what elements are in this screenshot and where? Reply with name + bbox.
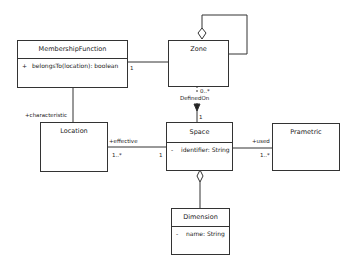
class-name: Location [41,123,107,140]
space-dimension-aggregation [197,170,203,208]
visibility-marker: - [176,230,186,237]
class-location[interactable]: Location [40,122,108,172]
visibility-marker: + [22,62,32,69]
class-name: Prametric [273,124,339,141]
operation-text: belongsTo(location): boolean [32,62,118,69]
definedon-multiplicity-bottom: 1 [199,114,203,120]
effective-multiplicity-location: 1..* [112,152,122,158]
characteristic-role-label: +characteristic [25,112,67,118]
class-name: Space [167,123,232,143]
definedon-multiplicity-top: 0..* [200,88,210,94]
class-dimension[interactable]: Dimension -name: String [171,208,230,255]
class-name: MembershipFunction [18,41,127,59]
class-name: Zone [169,41,228,58]
used-multiplicity: 1..* [260,152,270,158]
class-attribute: -identifier: String [167,143,232,156]
attribute-text: name: String [186,230,225,237]
used-role-label: +used [252,138,270,144]
visibility-marker: - [171,146,181,153]
class-zone[interactable]: Zone [168,40,229,87]
class-prametric[interactable]: Prametric [272,123,340,171]
membership-zone-multiplicity: 1 [130,65,134,71]
effective-multiplicity-space: 1 [159,152,163,158]
class-name: Dimension [172,209,229,227]
definedon-label: DefinedOn [180,95,209,101]
class-membershipfunction[interactable]: MembershipFunction +belongsTo(location):… [17,40,128,88]
class-space[interactable]: Space -identifier: String [166,122,233,171]
attribute-text: identifier: String [181,146,230,153]
effective-role-label: +effective [109,138,138,144]
class-operation: +belongsTo(location): boolean [18,59,127,72]
class-attribute: -name: String [172,227,229,240]
